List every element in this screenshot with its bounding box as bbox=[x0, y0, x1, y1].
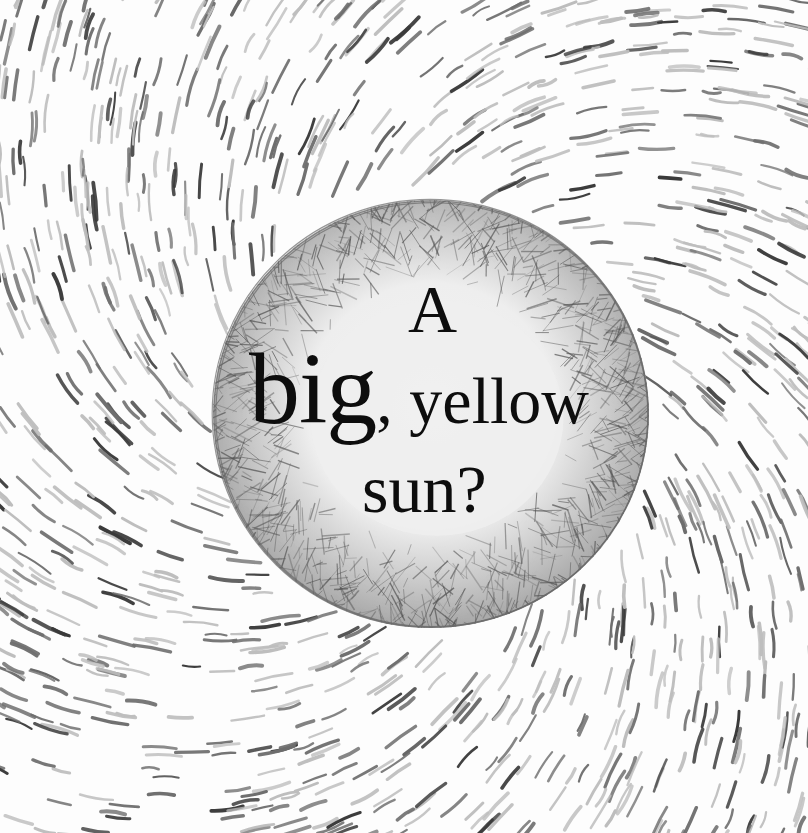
caption-word-big: big bbox=[249, 332, 376, 445]
illustration-canvas: A big, yellow sun? bbox=[0, 0, 808, 833]
caption-words-yellow: , yellow bbox=[376, 364, 589, 437]
caption-line-big-yellow: big, yellow bbox=[249, 338, 589, 440]
caption-line-a: A bbox=[408, 275, 457, 343]
caption-line-sun: sun? bbox=[362, 455, 487, 523]
